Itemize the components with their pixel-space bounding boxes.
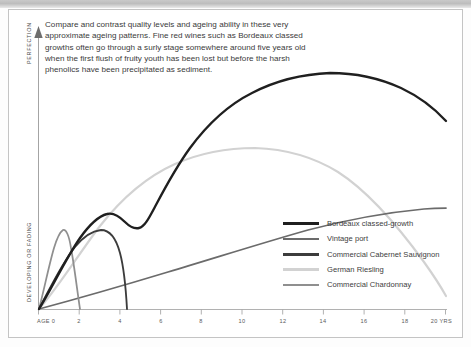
legend-swatch-line-icon: [283, 238, 319, 241]
chart-legend: Bordeaux classed-growth Vintage port Com…: [283, 216, 439, 292]
legend-label: Vintage port: [327, 234, 368, 243]
legend-swatch-line-icon: [283, 222, 319, 225]
x-tick-label-16: 16: [361, 318, 368, 324]
x-tick-label-10: 10: [239, 318, 246, 324]
y-axis: [34, 26, 42, 310]
x-axis-ticks: [39, 310, 446, 315]
legend-item-german-riesling[interactable]: German Riesling: [283, 262, 439, 277]
legend-item-commercial-cabernet-sauvignon[interactable]: Commercial Cabernet Sauvignon: [283, 247, 439, 262]
x-tick-label-6: 6: [159, 318, 162, 324]
x-tick-label-0: AGE 0: [37, 318, 55, 324]
legend-label: German Riesling: [327, 265, 384, 274]
x-axis-tick-labels: AGE 0 2 4 6 8 10 12 14 16 18 20 YRS: [0, 318, 471, 332]
annotation-paragraph: Compare and contrast quality levels and …: [45, 19, 313, 76]
x-axis: [39, 310, 448, 315]
x-tick-label-20: 20 YRS: [431, 318, 452, 324]
x-tick-label-14: 14: [320, 318, 327, 324]
figure-root: Compare and contrast quality levels and …: [0, 0, 471, 347]
legend-label: Bordeaux classed-growth: [327, 219, 413, 228]
y-axis-bottom-label: DEVELOPING OR FADING: [26, 222, 32, 302]
x-tick-label-4: 4: [118, 318, 121, 324]
legend-item-vintage-port[interactable]: Vintage port: [283, 231, 439, 246]
legend-label: Commercial Chardonnay: [327, 280, 411, 289]
chart-annotation-text: Compare and contrast quality levels and …: [45, 19, 313, 76]
y-axis-top-label: PERFECTION: [26, 22, 32, 64]
legend-item-commercial-chardonnay[interactable]: Commercial Chardonnay: [283, 277, 439, 292]
legend-swatch-line-icon: [283, 284, 319, 287]
y-axis-arrow-icon: [34, 26, 42, 38]
x-tick-label-12: 12: [280, 318, 287, 324]
legend-label: Commercial Cabernet Sauvignon: [327, 250, 439, 259]
legend-item-bordeaux-classed-growth[interactable]: Bordeaux classed-growth: [283, 216, 439, 231]
x-tick-label-2: 2: [77, 318, 80, 324]
legend-swatch-line-icon: [283, 253, 319, 256]
x-tick-label-8: 8: [199, 318, 202, 324]
x-tick-label-18: 18: [402, 318, 409, 324]
legend-swatch-line-icon: [283, 268, 319, 271]
